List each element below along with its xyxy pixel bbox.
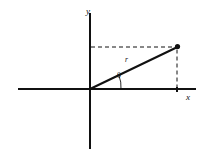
y-axis-label: y <box>86 7 90 16</box>
polar-coordinates-figure: y x r θ <box>0 0 210 155</box>
radius-vector-label: r <box>125 56 128 64</box>
figure-canvas <box>0 0 210 155</box>
x-axis-label: x <box>186 93 190 102</box>
radius-vector <box>90 47 178 89</box>
plotted-point <box>175 44 180 49</box>
angle-theta-label: θ <box>117 72 121 80</box>
